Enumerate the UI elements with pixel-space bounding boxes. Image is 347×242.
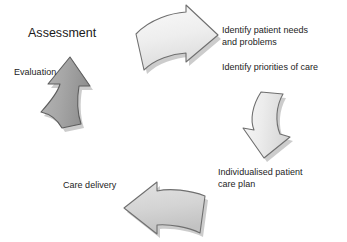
label-identify-priorities-of-care: Identify priorities of care xyxy=(222,61,318,73)
nursing-process-cycle-diagram: Assessment Identify patient needs and pr… xyxy=(0,0,347,242)
arrow-top-assessment-to-needs xyxy=(136,5,221,74)
label-evaluation: Evaluation xyxy=(14,66,56,78)
arrow-bottom-care-plan-to-delivery xyxy=(124,182,208,238)
label-care-delivery: Care delivery xyxy=(63,179,116,191)
arrow-right-priorities-to-care-plan xyxy=(243,92,293,162)
label-identify-patient-needs: Identify patient needs and problems xyxy=(222,24,308,48)
label-individualised-patient-care-plan: Individualised patient care plan xyxy=(218,166,303,190)
label-assessment: Assessment xyxy=(28,26,96,41)
